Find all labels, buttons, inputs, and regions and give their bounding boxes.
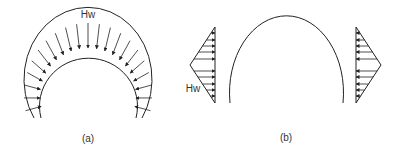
caption-a: (a) xyxy=(82,133,94,144)
panel-b: Hw (b) xyxy=(186,16,381,143)
load-label-b: Hw xyxy=(186,83,201,94)
right-triangular-load xyxy=(356,27,381,103)
radial-load-arrows xyxy=(24,23,152,111)
caption-b: (b) xyxy=(280,132,292,143)
figure-canvas: Hw (a) Hw (b) xyxy=(0,0,401,153)
panel-a: Hw (a) xyxy=(24,7,152,144)
load-label-a: Hw xyxy=(81,9,96,20)
inner-arch xyxy=(39,58,137,118)
arch-b xyxy=(230,16,344,103)
